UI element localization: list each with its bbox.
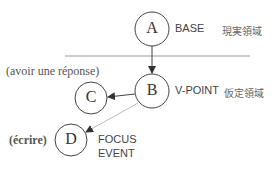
node-b-label: V-POINT <box>175 84 219 96</box>
node-c-annotation: (avoir une réponse) <box>6 64 99 79</box>
node-a-label: BASE <box>175 22 204 34</box>
node-d-label-line2: EVENT <box>98 147 135 159</box>
node-a-sublabel: 現実領域 <box>222 23 262 38</box>
node-b-sublabel: 仮定領域 <box>224 85 264 100</box>
node-a-letter: A <box>135 19 169 37</box>
node-d-letter: D <box>54 130 88 148</box>
arrow-b-to-d <box>86 103 138 132</box>
node-d-label-line1: FOCUS <box>98 133 137 145</box>
node-d-annotation: (écrire) <box>9 133 47 148</box>
arrow-b-to-c <box>108 94 135 97</box>
node-c-letter: C <box>74 88 108 106</box>
node-b-letter: B <box>135 81 169 99</box>
